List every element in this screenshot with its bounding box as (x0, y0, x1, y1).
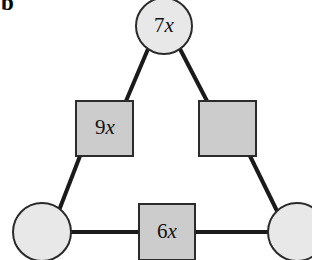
node-top-circle[interactable]: 7x (136, 0, 192, 54)
nodes-group: 7x 9x (0, 0, 312, 260)
edge-left-square-to-bottom-left-circle (58, 156, 80, 213)
right-square-shape[interactable] (199, 101, 256, 156)
graph-diagram: 7x 9x (0, 0, 312, 260)
edge-right-square-to-bottom-right-circle (250, 156, 279, 215)
bottom-right-circle-shape[interactable] (268, 203, 312, 260)
bottom-left-circle-shape[interactable] (13, 203, 71, 260)
figure-container: b 7x 9x (0, 0, 312, 260)
node-bottom-left-circle[interactable] (0, 0, 71, 260)
left-square-label: 9x (95, 115, 116, 139)
top-circle-label: 7x (154, 13, 175, 37)
bottom-square-label: 6x (157, 219, 178, 243)
edge-top-to-left-square (126, 49, 148, 101)
edge-top-to-right-square (180, 49, 207, 101)
node-bottom-square[interactable]: 6x (139, 204, 195, 260)
node-left-square[interactable]: 9x (76, 101, 133, 156)
